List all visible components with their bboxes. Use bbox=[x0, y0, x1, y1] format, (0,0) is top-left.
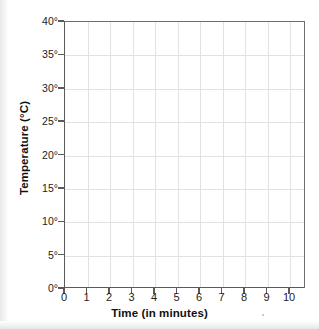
y-axis-tick bbox=[58, 120, 64, 122]
gridline-vertical bbox=[290, 22, 291, 287]
temperature-vs-time-chart: 0°5°10°15°20°25°30°35°40° 012345678910 T… bbox=[0, 0, 319, 329]
page-speck bbox=[262, 314, 264, 316]
y-axis-tick-label: 35° bbox=[22, 48, 58, 60]
chart-page: 0°5°10°15°20°25°30°35°40° 012345678910 T… bbox=[0, 0, 319, 329]
y-axis-tick bbox=[58, 254, 64, 256]
plot-area bbox=[64, 21, 305, 288]
gridline-vertical bbox=[223, 22, 224, 287]
gridline-vertical bbox=[200, 22, 201, 287]
gridline-vertical bbox=[268, 22, 269, 287]
y-axis-tick bbox=[58, 221, 64, 223]
y-axis-title: Temperature (°C) bbox=[18, 63, 30, 233]
y-axis-tick bbox=[58, 154, 64, 156]
y-axis-tick bbox=[58, 187, 64, 189]
gridline-vertical bbox=[155, 22, 156, 287]
gridline-vertical bbox=[88, 22, 89, 287]
x-axis-title: Time (in minutes) bbox=[0, 307, 319, 319]
y-axis-tick bbox=[58, 20, 64, 22]
y-axis-tick bbox=[58, 87, 64, 89]
y-axis-tick-label: 5° bbox=[22, 249, 58, 261]
gridline-vertical bbox=[110, 22, 111, 287]
gridline-vertical bbox=[133, 22, 134, 287]
y-axis-tick bbox=[58, 54, 64, 56]
y-axis-tick-label: 40° bbox=[22, 15, 58, 27]
gridline-vertical bbox=[245, 22, 246, 287]
x-axis-tick-label: 10 bbox=[274, 291, 304, 303]
gridline-vertical bbox=[178, 22, 179, 287]
